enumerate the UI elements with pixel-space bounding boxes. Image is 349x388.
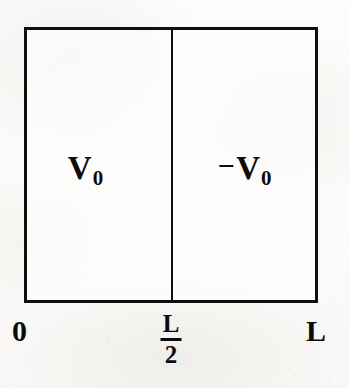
region-right-subscript: 0 (261, 166, 272, 190)
region-left-subscript: 0 (93, 166, 104, 190)
fraction-numerator: L (163, 311, 180, 337)
potential-well-figure: V0 −V0 0 L 2 L (0, 0, 349, 388)
region-label-right: −V0 (171, 152, 318, 185)
axis-label-midpoint: L 2 (161, 311, 182, 367)
axis-label-end: L (306, 316, 326, 346)
minus-sign-icon: − (218, 149, 236, 182)
region-right-symbol: V (236, 150, 260, 186)
region-left-symbol: V (68, 150, 92, 186)
axis-label-origin: 0 (12, 316, 27, 346)
region-label-left: V0 (0, 152, 171, 185)
fraction-denominator: 2 (165, 342, 178, 368)
